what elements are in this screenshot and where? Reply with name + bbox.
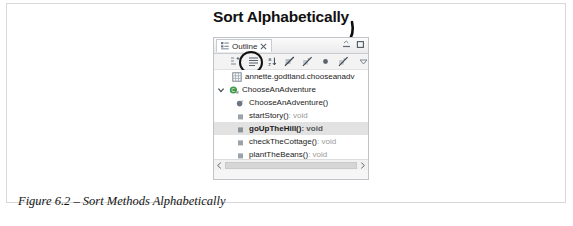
tree-row-class[interactable]: C ChooseAnAdventure (214, 83, 368, 96)
tree-row-method[interactable]: startStory() : void (214, 109, 368, 122)
outline-tree: annette.godtland.chooseanadv C ChooseAnA… (214, 70, 368, 170)
private-method-icon (236, 111, 246, 121)
tree-return-type: : void (301, 124, 322, 133)
tree-return-type: : void (317, 137, 336, 146)
tab-outline-label: Outline (232, 42, 257, 51)
scrollbar-thumb[interactable] (225, 162, 357, 169)
close-icon[interactable] (260, 43, 267, 50)
figure-page: Sort Alphabetically Outline (0, 0, 573, 226)
tree-label: ChooseAnAdventure() (249, 98, 328, 107)
collapse-all-icon[interactable] (230, 56, 241, 67)
sort-alphabetically-icon[interactable]: a z (266, 56, 277, 67)
tree-return-type: : void (289, 111, 308, 120)
private-method-icon (236, 150, 246, 160)
maximize-icon[interactable] (356, 40, 365, 49)
svg-text:c: c (241, 99, 243, 103)
hide-static-icon[interactable]: s (302, 56, 313, 67)
hide-local-types-icon[interactable]: c (338, 56, 349, 67)
chevron-right-icon[interactable] (358, 161, 367, 170)
private-method-icon (236, 124, 246, 134)
tab-outline[interactable]: Outline (216, 39, 272, 52)
tree-return-type: : void (308, 150, 327, 159)
outline-icon (221, 42, 229, 50)
minimize-icon[interactable] (342, 40, 351, 49)
view-window-buttons (342, 40, 365, 49)
package-icon (232, 72, 242, 82)
tree-row-method-selected[interactable]: goUpTheHill() : void (214, 122, 368, 135)
private-method-icon (236, 137, 246, 147)
tree-row-package[interactable]: annette.godtland.chooseanadv (214, 70, 368, 83)
horizontal-scrollbar[interactable] (214, 159, 368, 170)
class-icon: C (229, 85, 239, 95)
hide-fields-icon[interactable] (284, 56, 295, 67)
public-constructor-icon: c (236, 98, 246, 108)
figure-caption: Figure 6.2 – Sort Methods Alphabetically (18, 194, 226, 209)
hide-non-public-icon[interactable] (320, 56, 331, 67)
tree-row-constructor[interactable]: c ChooseAnAdventure() (214, 96, 368, 109)
chevron-down-icon[interactable] (216, 85, 226, 95)
outline-toolbar: a z s c (214, 54, 368, 70)
tree-label: goUpTheHill() (249, 124, 301, 133)
tree-label: plantTheBeans() (249, 150, 308, 159)
focus-task-icon[interactable] (248, 56, 259, 67)
tree-label: startStory() (249, 111, 289, 120)
chevron-down-icon[interactable] (358, 56, 369, 67)
chevron-left-icon[interactable] (215, 161, 224, 170)
tree-label: ChooseAnAdventure (242, 85, 316, 94)
tree-label: checkTheCottage() (249, 137, 317, 146)
view-tabbar: Outline (214, 38, 368, 54)
svg-text:z: z (268, 61, 271, 67)
outline-view: Outline (213, 37, 369, 180)
tree-label: annette.godtland.chooseanadv (245, 72, 354, 81)
tree-row-method[interactable]: checkTheCottage() : void (214, 135, 368, 148)
